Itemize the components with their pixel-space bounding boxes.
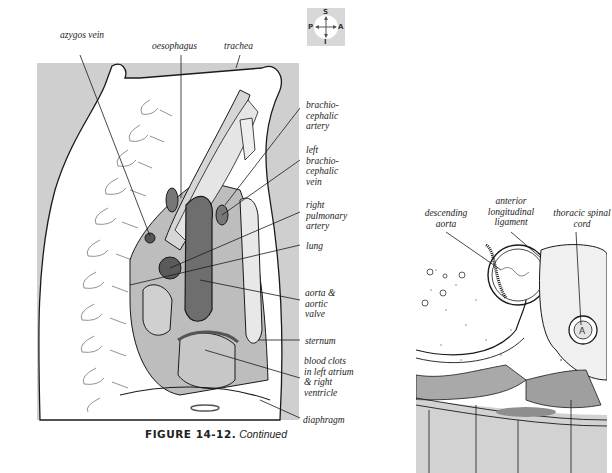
orientation-anterior: A: [338, 23, 343, 31]
label-right-pulmonary-artery: right pulmonary artery: [306, 200, 356, 232]
sagittal-section-illustration: [0, 0, 310, 425]
label-aorta-aortic-valve: aorta & aortic valve: [305, 288, 345, 320]
label-blood-clots: blood clots in left atrium & right ventr…: [304, 356, 354, 398]
figure-caption-suffix: Continued: [239, 428, 287, 440]
label-left-brachiocephalic-vein: left brachio-cephalic vein: [306, 145, 351, 187]
orientation-key: S P A I: [307, 8, 345, 46]
label-thoracic-spinal-cord: thoracic spinal cord: [552, 208, 612, 229]
figure-caption: FIGURE 14-12. Continued: [145, 428, 287, 440]
label-anterior-longitudinal-ligament: anterior longitudinal ligament: [480, 196, 542, 228]
orientation-inferior: I: [324, 38, 327, 46]
orientation-superior: S: [323, 8, 328, 16]
axial-section-illustration: A: [416, 230, 607, 473]
label-brachiocephalic-artery: brachio-cephalic artery: [306, 100, 351, 132]
label-descending-aorta: descending aorta: [418, 208, 474, 229]
svg-text:A: A: [579, 326, 586, 336]
figure-number: FIGURE 14-12.: [145, 428, 236, 440]
